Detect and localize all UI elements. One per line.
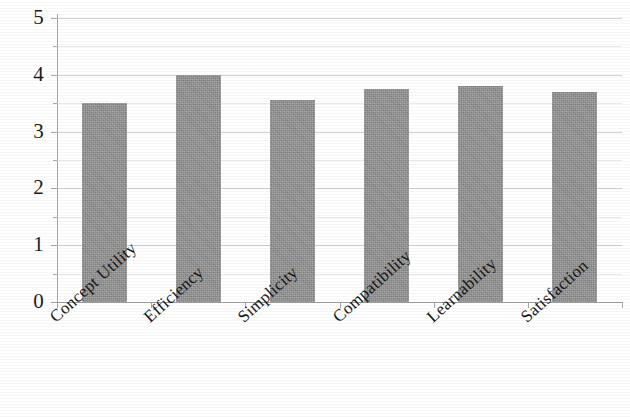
gridline-minor [57, 217, 622, 218]
gridline-major [57, 245, 622, 246]
y-axis-tick-label: 1 [18, 234, 44, 255]
y-axis-tick-label: 4 [18, 64, 44, 85]
gridline-major [57, 188, 622, 189]
x-axis-tick [622, 302, 623, 308]
plot-area [57, 18, 622, 302]
y-axis-tick-label: 5 [18, 7, 44, 28]
gridline-minor [57, 274, 622, 275]
y-axis-tick-label: 2 [18, 177, 44, 198]
gridline-major [57, 132, 622, 133]
y-axis-tick-label: 3 [18, 121, 44, 142]
gridline-major [57, 18, 622, 19]
bar-chart: 012345 Concept UtilityEfficiencySimplici… [0, 0, 630, 417]
gridline-major [57, 75, 622, 76]
y-axis-tick-label: 0 [18, 291, 44, 312]
gridline-minor [57, 103, 622, 104]
gridline-minor [57, 160, 622, 161]
gridline-minor [57, 46, 622, 47]
